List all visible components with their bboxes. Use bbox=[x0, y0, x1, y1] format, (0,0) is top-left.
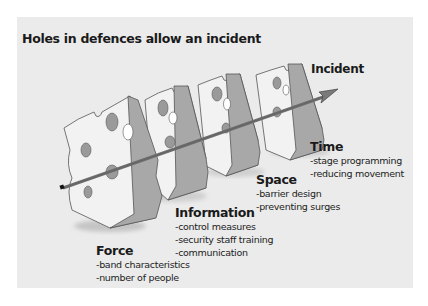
layer-item: -communication bbox=[175, 246, 273, 259]
layer-label-information: Information -control measures -security … bbox=[175, 205, 273, 259]
layer-label-force: Force -band characteristics -number of p… bbox=[96, 243, 190, 284]
outcome-label-incident: Incident bbox=[311, 62, 364, 76]
layer-name: Time bbox=[310, 139, 404, 154]
layer-item: -control measures bbox=[175, 220, 273, 233]
layer-item: -security staff training bbox=[175, 233, 273, 246]
cheese-slice-space bbox=[198, 74, 265, 177]
layer-name: Force bbox=[96, 243, 190, 258]
layer-item: -stage programming bbox=[310, 154, 404, 167]
layer-item: -barrier design bbox=[256, 187, 340, 200]
layer-name: Information bbox=[175, 205, 273, 220]
layer-name: Space bbox=[256, 172, 340, 187]
layer-item: -band characteristics bbox=[96, 258, 190, 271]
layer-item: -number of people bbox=[96, 271, 190, 284]
